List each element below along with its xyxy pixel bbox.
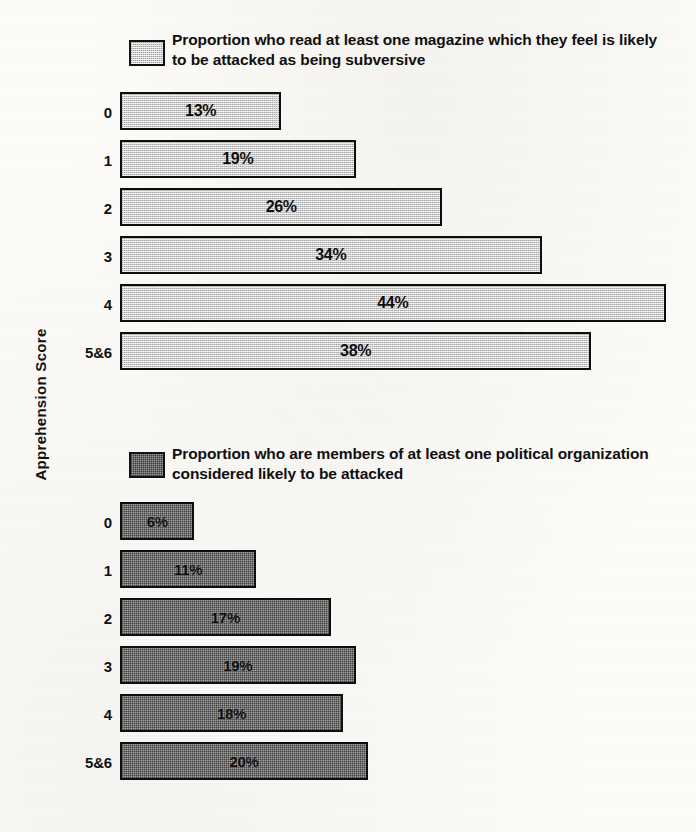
bar-value-label: 34% — [315, 246, 346, 264]
bar-value-label: 20% — [229, 753, 258, 770]
bar-value-label: 11% — [174, 561, 202, 578]
bar: 19% — [120, 646, 356, 684]
bar-value-label: 6% — [147, 513, 168, 530]
bar-row: 319% — [0, 642, 696, 690]
category-label: 2 — [60, 610, 112, 627]
legend-swatch-dark-icon — [129, 452, 165, 478]
bar-row: 226% — [0, 184, 696, 232]
bar-value-label: 19% — [222, 150, 253, 168]
category-label: 3 — [60, 248, 112, 265]
bar-row: 217% — [0, 594, 696, 642]
legend-label-bottom: Proportion who are members of at least o… — [172, 444, 652, 485]
bar-row: 06% — [0, 498, 696, 546]
bar-value-label: 18% — [217, 705, 246, 722]
bar-row: 111% — [0, 546, 696, 594]
legend-label-top: Proportion who read at least one magazin… — [172, 30, 672, 71]
bar: 13% — [120, 92, 281, 130]
bar-row: 444% — [0, 280, 696, 328]
bar-group-bottom: 06%111%217%319%418%5&620% — [0, 498, 696, 786]
bar: 19% — [120, 140, 356, 178]
bar-row: 013% — [0, 88, 696, 136]
category-label: 5&6 — [60, 344, 112, 361]
bar-value-label: 17% — [211, 609, 240, 626]
bar-row: 5&620% — [0, 738, 696, 786]
category-label: 5&6 — [60, 754, 112, 771]
legend-bottom: Proportion who are members of at least o… — [0, 438, 696, 498]
category-label: 0 — [60, 104, 112, 121]
legend-top: Proportion who read at least one magazin… — [0, 28, 696, 88]
category-label: 1 — [60, 562, 112, 579]
bar-row: 119% — [0, 136, 696, 184]
bar: 44% — [120, 284, 666, 322]
bar: 34% — [120, 236, 542, 274]
bar-row: 5&638% — [0, 328, 696, 376]
category-label: 0 — [60, 514, 112, 531]
bar-row: 334% — [0, 232, 696, 280]
category-label: 2 — [60, 200, 112, 217]
bar-group-top: 013%119%226%334%444%5&638% — [0, 88, 696, 376]
bar-value-label: 19% — [223, 657, 252, 674]
legend-swatch-light-icon — [129, 40, 165, 66]
bar: 38% — [120, 332, 591, 370]
bar: 18% — [120, 694, 343, 732]
category-label: 1 — [60, 152, 112, 169]
category-label: 4 — [60, 296, 112, 313]
bar: 20% — [120, 742, 368, 780]
bar-value-label: 13% — [185, 102, 216, 120]
category-label: 4 — [60, 706, 112, 723]
chart-political-membership: Proportion who are members of at least o… — [0, 438, 696, 786]
bar-row: 418% — [0, 690, 696, 738]
figure-root: Apprehension Score Proportion who read a… — [0, 0, 696, 832]
bar: 6% — [120, 502, 194, 540]
bar: 11% — [120, 550, 256, 588]
bar: 26% — [120, 188, 442, 226]
bar-value-label: 44% — [377, 294, 408, 312]
chart-magazine-readership: Proportion who read at least one magazin… — [0, 28, 696, 376]
bar-value-label: 38% — [340, 342, 371, 360]
category-label: 3 — [60, 658, 112, 675]
bar: 17% — [120, 598, 331, 636]
bar-value-label: 26% — [266, 198, 297, 216]
